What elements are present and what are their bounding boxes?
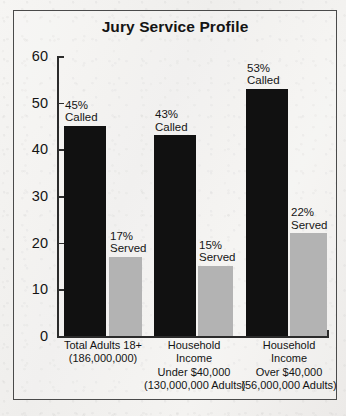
y-tick-label-10: 10	[32, 281, 48, 297]
y-tick-label-0: 0	[40, 328, 48, 344]
x-label-income-over-40k-line4: (56,000,000 Adults)	[239, 379, 339, 392]
plot-area: 60 50 40 30 20 10 0 45%	[57, 56, 329, 336]
x-label-income-under-40k-line3: Under $40,000	[144, 366, 244, 379]
y-tick-label-40: 40	[32, 141, 48, 157]
y-tick-mark-0	[57, 336, 64, 338]
bar-label-income-under-40k-called: 43% Called	[155, 108, 188, 133]
x-label-total-adults-line2: (186,000,000)	[53, 352, 153, 365]
bar-pct-income-under-40k-called: 43%	[155, 108, 178, 120]
bar-pct-total-adults-called: 45%	[65, 99, 88, 111]
bar-label-income-over-40k-called: 53% Called	[247, 62, 280, 87]
x-label-income-under-40k-line1: Household	[144, 339, 244, 352]
bar-status-income-over-40k-called: Called	[247, 74, 280, 86]
x-label-income-under-40k-line2: Income	[144, 352, 244, 365]
bar-income-over-40k-called[interactable]: 53% Called	[246, 89, 288, 336]
bar-pct-income-over-40k-called: 53%	[247, 62, 270, 74]
bar-pct-income-over-40k-served: 22%	[291, 206, 314, 218]
bar-income-under-40k-served[interactable]: 15% Served	[198, 266, 233, 336]
bar-status-income-over-40k-served: Served	[291, 219, 327, 231]
x-label-income-over-40k-line1: Household	[239, 339, 339, 352]
bar-total-adults-called[interactable]: 45% Called	[64, 126, 106, 336]
x-label-total-adults: Total Adults 18+ (186,000,000)	[53, 339, 153, 366]
y-tick-label-50: 50	[32, 95, 48, 111]
x-label-total-adults-line1: Total Adults 18+	[53, 339, 153, 352]
chart-title: Jury Service Profile	[14, 18, 336, 36]
bar-label-income-under-40k-served: 15% Served	[199, 239, 235, 264]
bar-status-income-under-40k-called: Called	[155, 121, 188, 133]
x-axis-line	[57, 336, 329, 338]
x-label-income-over-40k-line2: Income	[239, 352, 339, 365]
bar-income-over-40k-served[interactable]: 22% Served	[290, 233, 327, 336]
x-label-income-over-40k: Household Income Over $40,000 (56,000,00…	[239, 339, 339, 393]
bar-label-total-adults-called: 45% Called	[65, 99, 98, 124]
bar-status-total-adults-called: Called	[65, 111, 98, 123]
bar-status-total-adults-served: Served	[110, 242, 146, 254]
y-tick-mark-60	[57, 56, 64, 58]
bar-label-income-over-40k-served: 22% Served	[291, 206, 327, 231]
bar-label-total-adults-served: 17% Served	[110, 230, 146, 255]
x-axis-end-cap	[327, 330, 329, 338]
chart-frame: Jury Service Profile 60 50 40 30 20 10	[13, 10, 337, 400]
y-tick-label-20: 20	[32, 235, 48, 251]
y-tick-label-60: 60	[32, 48, 48, 64]
y-tick-mark-10	[57, 289, 64, 291]
y-tick-mark-40	[57, 149, 64, 151]
bar-total-adults-served[interactable]: 17% Served	[109, 257, 142, 336]
bar-income-under-40k-called[interactable]: 43% Called	[154, 135, 196, 336]
y-tick-mark-50	[57, 103, 64, 105]
bar-pct-total-adults-served: 17%	[110, 230, 133, 242]
x-label-income-over-40k-line3: Over $40,000	[239, 366, 339, 379]
bar-pct-income-under-40k-served: 15%	[199, 239, 222, 251]
y-tick-label-30: 30	[32, 188, 48, 204]
y-tick-mark-20	[57, 243, 64, 245]
y-tick-mark-30	[57, 196, 64, 198]
bar-status-income-under-40k-served: Served	[199, 251, 235, 263]
x-label-income-under-40k-line4: (130,000,000 Adults)	[144, 379, 244, 392]
x-label-income-under-40k: Household Income Under $40,000 (130,000,…	[144, 339, 244, 393]
